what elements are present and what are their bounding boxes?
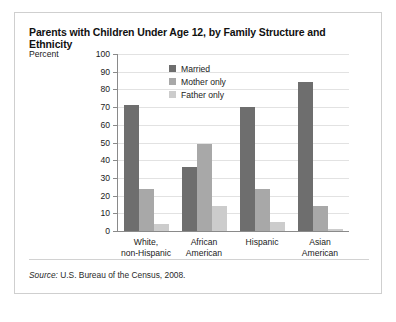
y-axis-title: Percent <box>29 49 59 59</box>
y-axis-tick-label: 100 <box>96 49 110 59</box>
bar[interactable] <box>124 105 139 231</box>
y-axis-tick <box>113 72 117 73</box>
y-axis-tick <box>113 125 117 126</box>
y-axis-tick-label: 30 <box>100 173 110 183</box>
legend-label: Married <box>181 64 210 74</box>
bar[interactable] <box>240 107 255 231</box>
bar-group: Hispanic <box>240 54 285 231</box>
legend-swatch-icon <box>169 65 176 72</box>
bar[interactable] <box>270 222 285 231</box>
bar[interactable] <box>197 144 212 231</box>
x-axis-category-line: Asian <box>278 237 362 248</box>
legend-item-father-only[interactable]: Father only <box>169 88 226 101</box>
legend-label: Father only <box>181 90 224 100</box>
legend-item-married[interactable]: Married <box>169 62 226 75</box>
y-axis-tick <box>113 231 117 232</box>
legend-swatch-icon <box>169 91 176 98</box>
bar[interactable] <box>328 229 343 231</box>
bar[interactable] <box>298 82 313 231</box>
x-axis-line <box>117 231 349 232</box>
legend-label: Mother only <box>181 77 226 87</box>
x-axis-category-line: American <box>162 248 246 259</box>
bar[interactable] <box>212 206 227 231</box>
y-axis-tick <box>113 54 117 55</box>
y-axis-tick <box>113 89 117 90</box>
y-axis-tick-label: 20 <box>100 191 110 201</box>
bar-group: AsianAmerican <box>298 54 343 231</box>
y-axis-tick <box>113 178 117 179</box>
y-axis-tick-label: 70 <box>100 102 110 112</box>
y-axis-tick <box>113 143 117 144</box>
y-axis-tick <box>113 196 117 197</box>
y-axis-tick-label: 80 <box>100 84 110 94</box>
y-axis-tick-label: 0 <box>105 226 110 236</box>
y-axis-tick-label: 60 <box>100 120 110 130</box>
y-axis-tick <box>113 160 117 161</box>
bar[interactable] <box>154 224 169 231</box>
source-text: U.S. Bureau of the Census, 2008. <box>58 270 186 280</box>
plot-zone: Percent 1009080706050403020100 White,non… <box>29 47 369 247</box>
source-note: Source: U.S. Bureau of the Census, 2008. <box>29 270 185 280</box>
source-prefix: Source: <box>29 270 58 280</box>
y-axis-tick-label: 50 <box>100 138 110 148</box>
bar[interactable] <box>182 167 197 231</box>
source-divider <box>29 259 369 260</box>
x-axis-category-line: American <box>278 248 362 259</box>
bar[interactable] <box>255 189 270 231</box>
legend-item-mother-only[interactable]: Mother only <box>169 75 226 88</box>
bar[interactable] <box>313 206 328 231</box>
y-axis-tick-label: 10 <box>100 208 110 218</box>
legend-swatch-icon <box>169 78 176 85</box>
plot-area: 1009080706050403020100 White,non-Hispani… <box>117 54 349 232</box>
x-axis-category-label: AsianAmerican <box>278 237 362 259</box>
y-axis-tick <box>113 213 117 214</box>
figure-card: Parents with Children Under Age 12, by F… <box>14 12 382 294</box>
y-axis-tick <box>113 107 117 108</box>
chart-legend: MarriedMother onlyFather only <box>169 62 226 101</box>
y-axis-tick-label: 90 <box>100 67 110 77</box>
bar-group: White,non-Hispanic <box>124 54 169 231</box>
bar[interactable] <box>139 189 154 231</box>
y-axis-tick-label: 40 <box>100 155 110 165</box>
